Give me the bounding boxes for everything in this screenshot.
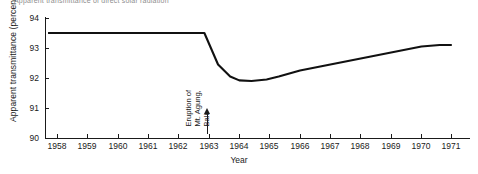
- chart-figure: Apparent transmittance of direct solar r…: [0, 0, 478, 174]
- plot-area: Apparent transmittance (percent) 94 93 9…: [0, 0, 478, 174]
- data-series-line: [0, 0, 478, 174]
